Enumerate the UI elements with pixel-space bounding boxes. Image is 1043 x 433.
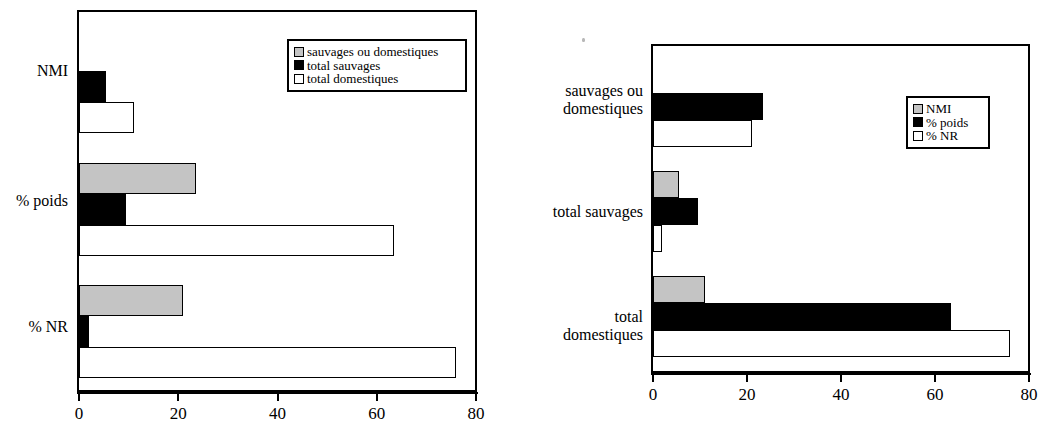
bar-total-domestiques-white: [653, 330, 1010, 357]
legend-label: total domestiques: [307, 72, 398, 86]
x-tick: [934, 375, 936, 382]
x-tick-label: 80: [468, 404, 485, 424]
legend-swatch-white-icon: [913, 131, 923, 141]
scan-speck-artifact: [582, 38, 585, 42]
x-tick: [376, 394, 378, 401]
x-tick-label: 60: [927, 385, 944, 405]
left-chart-category-label-2: % NR: [0, 318, 68, 336]
legend-swatch-gray-icon: [913, 104, 923, 114]
figure-two-bar-charts: 020406080 NMI % poids % NR sauvages ou d…: [0, 0, 1043, 433]
legend-label: % NR: [926, 129, 958, 143]
x-tick-label: 20: [170, 404, 187, 424]
legend-swatch-gray-icon: [294, 47, 304, 57]
legend-swatch-black-icon: [913, 117, 923, 127]
legend-item-nmi: NMI: [913, 102, 982, 116]
right-chart-category-label-0: sauvages ou domestiques: [521, 82, 643, 118]
bar-total-sauvages-white: [653, 225, 662, 252]
bar-nmi-white: [79, 102, 134, 133]
bar-%-nr-gray: [79, 285, 183, 316]
x-tick: [652, 375, 654, 382]
legend-item-total-domestiques: total domestiques: [294, 72, 459, 86]
x-tick: [78, 394, 80, 401]
x-tick: [840, 375, 842, 382]
x-tick: [475, 394, 477, 401]
left-chart-category-label-0: NMI: [0, 62, 68, 80]
bar-%-poids-gray: [79, 163, 196, 194]
legend-swatch-black-icon: [294, 60, 304, 70]
right-chart-plot-area: [653, 46, 1029, 361]
legend-label: NMI: [926, 102, 951, 116]
right-chart-category-label-1: total sauvages: [521, 203, 643, 221]
x-tick-label: 40: [269, 404, 286, 424]
bar-total-domestiques-gray: [653, 276, 705, 303]
x-tick-label: 20: [739, 385, 756, 405]
x-tick: [177, 394, 179, 401]
x-tick: [1028, 375, 1030, 382]
bar-%-poids-black: [79, 194, 126, 225]
bar-sauvages-ou-domestiques-black: [653, 93, 763, 120]
bar-nmi-black: [79, 71, 106, 102]
legend-label: % poids: [926, 116, 968, 130]
right-chart-category-label-2: total domestiques: [521, 308, 643, 344]
right-chart-panel: 020406080 sauvages ou domestiques total …: [521, 0, 1043, 433]
legend-item-pourcent-poids: % poids: [913, 116, 982, 130]
x-tick-label: 0: [75, 404, 84, 424]
bar-%-poids-white: [79, 225, 394, 256]
legend-label: total sauvages: [307, 59, 380, 73]
legend-item-pourcent-nr: % NR: [913, 129, 982, 143]
x-tick-label: 60: [368, 404, 385, 424]
left-chart-legend: sauvages ou domestiques total sauvages t…: [287, 39, 467, 92]
bar-total-sauvages-gray: [653, 171, 679, 198]
legend-label: sauvages ou domestiques: [307, 45, 438, 59]
x-tick: [277, 394, 279, 401]
left-chart-category-label-1: % poids: [0, 192, 68, 210]
right-chart-x-axis: 020406080: [653, 373, 1029, 418]
left-chart-x-axis: 020406080: [79, 392, 476, 433]
legend-item-sauvages-ou-domestiques: sauvages ou domestiques: [294, 45, 459, 59]
bar-%-nr-white: [79, 347, 456, 378]
x-tick-label: 40: [833, 385, 850, 405]
bar-total-sauvages-black: [653, 198, 698, 225]
left-chart-panel: 020406080 NMI % poids % NR sauvages ou d…: [0, 0, 521, 433]
right-chart-legend: NMI % poids % NR: [906, 96, 990, 149]
bar-sauvages-ou-domestiques-white: [653, 120, 752, 147]
bar-%-nr-black: [79, 316, 89, 347]
legend-item-total-sauvages: total sauvages: [294, 59, 459, 73]
legend-swatch-white-icon: [294, 74, 304, 84]
x-tick-label: 0: [649, 385, 658, 405]
bar-total-domestiques-black: [653, 303, 951, 330]
x-tick-label: 80: [1021, 385, 1038, 405]
x-tick: [746, 375, 748, 382]
